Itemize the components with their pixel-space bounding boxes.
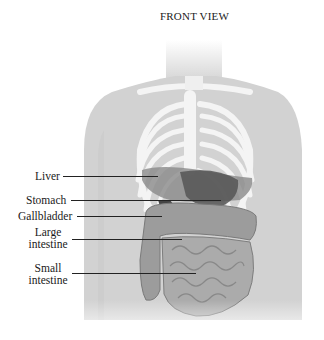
label-large-intestine: Large intestine — [24, 226, 72, 250]
label-gallbladder: Gallbladder — [18, 210, 72, 222]
organs — [140, 167, 256, 316]
label-small-intestine: Small intestine — [24, 262, 72, 286]
label-large-intestine-line1: Large — [24, 226, 72, 238]
leader-line-stomach — [71, 200, 221, 201]
leader-line-gallbladder — [77, 216, 162, 217]
label-small-intestine-line2: intestine — [24, 274, 72, 286]
label-liver: Liver — [35, 170, 60, 182]
label-small-intestine-line1: Small — [24, 262, 72, 274]
label-large-intestine-line2: intestine — [24, 238, 72, 250]
label-stomach: Stomach — [26, 194, 66, 206]
leader-line-small-intestine — [72, 273, 196, 274]
leader-line-large-intestine — [72, 239, 182, 240]
leader-line-liver — [63, 176, 158, 177]
